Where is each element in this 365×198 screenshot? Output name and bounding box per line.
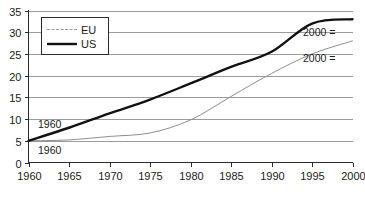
x-axis-label-1990: 1990 [260,170,284,182]
y-axis-label-10: 10 [9,114,21,126]
annotation-us-start: 1960 [38,118,62,130]
annotation-eu-end: 2000 = [303,52,335,64]
x-axis-label-2000: 2000 [341,170,365,182]
y-axis-label-35: 35 [9,6,21,18]
x-axis-label-1975: 1975 [138,170,162,182]
y-axis-label-30: 30 [9,27,21,39]
legend-label-eu: EU [81,24,96,36]
x-axis-labels-group: 196019651970197519801985199019952000 [17,170,365,182]
legend-label-us: US [81,38,96,50]
chart-legend[interactable]: EU US [42,18,109,55]
chart-container: 05101520253035 1960196519701975198019851… [0,0,365,198]
annotation-us-end: 2000 = [303,26,335,38]
y-axis-label-20: 20 [9,71,21,83]
x-axis-label-1980: 1980 [179,170,203,182]
y-axis-label-0: 0 [15,158,21,170]
y-axis-label-25: 25 [9,49,21,61]
y-axis-label-15: 15 [9,92,21,104]
x-axis-label-1995: 1995 [300,170,324,182]
y-axis-label-5: 5 [15,136,21,148]
x-axis-label-1985: 1985 [219,170,243,182]
x-axis-label-1960: 1960 [17,170,41,182]
legend-border [42,18,109,55]
x-axis-label-1970: 1970 [98,170,122,182]
line-chart: 05101520253035 1960196519701975198019851… [0,0,365,198]
annotation-eu-start: 1960 [38,144,62,156]
x-axis-label-1965: 1965 [57,170,81,182]
